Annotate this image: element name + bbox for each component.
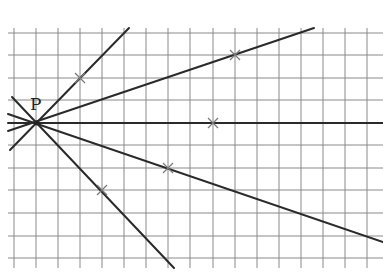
point-p-marker (35, 121, 40, 126)
ray-shallow-up (8, 28, 314, 131)
ray-shallow-down (8, 114, 383, 242)
geometry-diagram: P (0, 0, 383, 278)
ray-steep-up (10, 28, 129, 150)
point-p-label: P (30, 94, 41, 114)
rays-through-p (8, 28, 383, 268)
square-grid (8, 28, 383, 268)
